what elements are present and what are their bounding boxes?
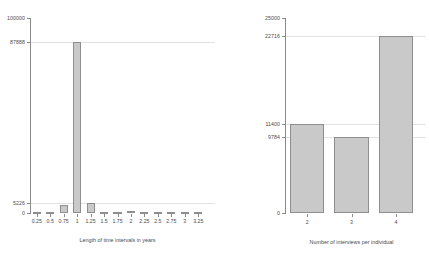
x-axis-title: Length of time intervals in years <box>79 237 155 243</box>
x-axis-tick <box>158 214 159 217</box>
y-axis-tick-label: 11400 <box>255 121 280 127</box>
x-axis-tick <box>118 214 119 217</box>
x-axis-tick-label: 2 <box>306 219 309 225</box>
x-axis-tick-label: 1.75 <box>112 218 122 224</box>
x-axis-title: Number of interviews per individual <box>310 239 394 245</box>
y-axis-tick <box>282 18 286 19</box>
y-axis-tick-label: 0 <box>255 210 280 216</box>
y-axis-line <box>30 18 31 213</box>
x-axis-tick <box>50 214 51 217</box>
y-axis-tick-label: 87888 <box>0 39 25 45</box>
x-axis-tick-label: 2.25 <box>139 218 149 224</box>
x-axis-tick <box>91 214 92 217</box>
x-axis-tick-label: 4 <box>394 219 397 225</box>
x-axis-tick <box>37 214 38 217</box>
x-axis-tick-label: 2.5 <box>154 218 161 224</box>
y-axis-tick <box>27 203 31 204</box>
bar <box>290 124 325 213</box>
x-axis-tick-label: 3 <box>350 219 353 225</box>
chart-panel-left: 05226878881000000.250.50.7511.251.51.752… <box>0 0 215 263</box>
bar <box>73 42 81 213</box>
x-axis-tick-label: 1.5 <box>100 218 107 224</box>
gridline <box>30 42 215 43</box>
y-axis-tick-label: 0 <box>0 210 25 216</box>
x-axis-tick-label: 2 <box>130 218 133 224</box>
x-axis-tick-label: 2.75 <box>166 218 176 224</box>
y-axis-tick-label: 9784 <box>255 134 280 140</box>
bar <box>87 203 95 213</box>
x-axis-tick-label: 0.25 <box>32 218 42 224</box>
figure-two-histograms: 05226878881000000.250.50.7511.251.51.752… <box>0 0 429 263</box>
x-axis-tick-label: 0.5 <box>47 218 54 224</box>
y-axis-line <box>285 18 286 213</box>
x-axis-tick <box>131 214 132 217</box>
x-axis-tick-label: 1 <box>76 218 79 224</box>
bar <box>379 36 414 213</box>
y-axis-tick-label: 100000 <box>0 15 25 21</box>
x-axis-tick <box>77 214 78 217</box>
x-axis-tick-label: 3 <box>183 218 186 224</box>
x-axis-tick <box>104 214 105 217</box>
x-axis-tick-label: 0.75 <box>59 218 69 224</box>
y-axis-tick-label: 5226 <box>0 200 25 206</box>
y-axis-tick <box>282 124 286 125</box>
bar <box>60 205 68 213</box>
x-axis-tick <box>185 214 186 217</box>
y-axis-tick <box>27 18 31 19</box>
x-axis-tick <box>144 214 145 217</box>
x-axis-tick <box>171 214 172 217</box>
y-axis-tick <box>27 42 31 43</box>
y-axis-tick <box>282 137 286 138</box>
x-axis-tick-label: 1.25 <box>86 218 96 224</box>
x-axis-tick <box>307 214 308 217</box>
y-axis-tick <box>27 213 31 214</box>
chart-panel-right: 09784114002271625000234Number of intervi… <box>215 0 429 263</box>
x-axis-tick <box>352 214 353 217</box>
bar <box>127 211 135 213</box>
bar <box>334 137 369 213</box>
gridline <box>30 203 215 204</box>
y-axis-tick-label: 22716 <box>255 33 280 39</box>
y-axis-tick-label: 25000 <box>255 15 280 21</box>
x-axis-tick <box>198 214 199 217</box>
plot-area-left <box>30 18 205 213</box>
x-axis-tick <box>64 214 65 217</box>
x-axis-tick-label: 3.25 <box>193 218 203 224</box>
y-axis-tick <box>282 36 286 37</box>
x-axis-tick <box>396 214 397 217</box>
y-axis-tick <box>282 213 286 214</box>
